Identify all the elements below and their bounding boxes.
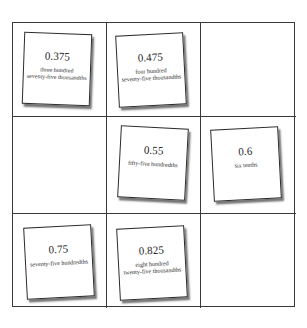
grid-cell-r3-c2[interactable]: 0.825 eight hundred twenty-five thousand… [107, 214, 201, 308]
card-number: 0.475 [117, 49, 184, 64]
grid-cell-r3-c1[interactable]: 0.75 seventy-five hundredths [13, 214, 107, 308]
card-number: 0.375 [24, 49, 90, 63]
grid-cell-r2-c1[interactable] [13, 117, 107, 214]
card-number: 0.825 [118, 242, 185, 257]
card-words: seventy-five hundredths [26, 258, 92, 268]
card-words: eight hundred twenty-five thousandths [119, 259, 186, 275]
grid-cell-r3-c3[interactable] [201, 214, 296, 308]
card-words: three hundred seventy-five thousandths [24, 66, 90, 81]
number-card[interactable]: 0.475 four hundred seventy-five thousand… [115, 32, 187, 107]
card-number: 0.55 [120, 142, 187, 157]
number-card[interactable]: 0.75 seventy-five hundredths [23, 224, 95, 299]
grid-cell-r2-c3[interactable]: 0.6 six tenths [201, 117, 296, 214]
card-words: six tenths [213, 160, 279, 170]
card-number: 0.75 [25, 241, 92, 256]
number-card[interactable]: 0.375 three hundred seventy-five thousan… [22, 32, 92, 106]
card-words: fifty-five hundredths [120, 159, 186, 169]
card-number: 0.6 [212, 143, 279, 158]
grid-cell-r1-c2[interactable]: 0.475 four hundred seventy-five thousand… [107, 23, 201, 117]
card-words: four hundred seventy-five thousandths [118, 66, 185, 82]
number-card[interactable]: 0.825 eight hundred twenty-five thousand… [116, 225, 188, 300]
number-card[interactable]: 0.55 fifty-five hundredths [117, 125, 189, 200]
grid-cell-r1-c3[interactable] [201, 23, 296, 117]
grid-cell-r1-c1[interactable]: 0.375 three hundred seventy-five thousan… [13, 23, 107, 117]
grid-cell-r2-c2[interactable]: 0.55 fifty-five hundredths [107, 117, 201, 214]
sorting-grid: 0.375 three hundred seventy-five thousan… [12, 22, 295, 307]
number-card[interactable]: 0.6 six tenths [210, 126, 282, 201]
